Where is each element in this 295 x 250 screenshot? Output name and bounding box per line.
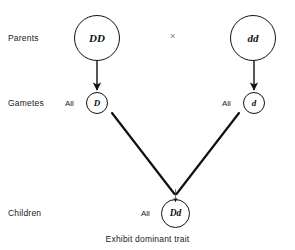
row-label-gametes: Gametes xyxy=(8,98,44,108)
row-label-parents: Parents xyxy=(8,33,39,43)
child-genotype-label: Dd xyxy=(170,209,182,219)
gamete-allele-dominant: D xyxy=(86,92,108,114)
punnett-cross-diagram: Parents Gametes Children DD × dd All D A… xyxy=(0,0,295,250)
cross-symbol: × xyxy=(170,31,175,41)
child-quantifier: All xyxy=(141,209,150,218)
parent-genotype-recessive-label: dd xyxy=(248,33,259,44)
parent-genotype-dominant-label: DD xyxy=(89,33,105,44)
parent-genotype-dominant: DD xyxy=(74,15,120,61)
gamete-allele-recessive: d xyxy=(243,92,265,114)
child-genotype: Dd xyxy=(161,199,190,228)
fertilization-line-left xyxy=(112,113,175,194)
gamete-dominant-quantifier: All xyxy=(65,99,74,108)
gamete-allele-recessive-label: d xyxy=(252,99,257,108)
row-label-children: Children xyxy=(8,208,41,218)
parent-genotype-recessive: dd xyxy=(230,15,276,61)
gamete-allele-dominant-label: D xyxy=(94,99,101,108)
fertilization-line-right xyxy=(177,113,240,194)
gamete-recessive-quantifier: All xyxy=(222,99,231,108)
caption-dominant-trait: Exhibit dominant trait xyxy=(0,234,295,244)
